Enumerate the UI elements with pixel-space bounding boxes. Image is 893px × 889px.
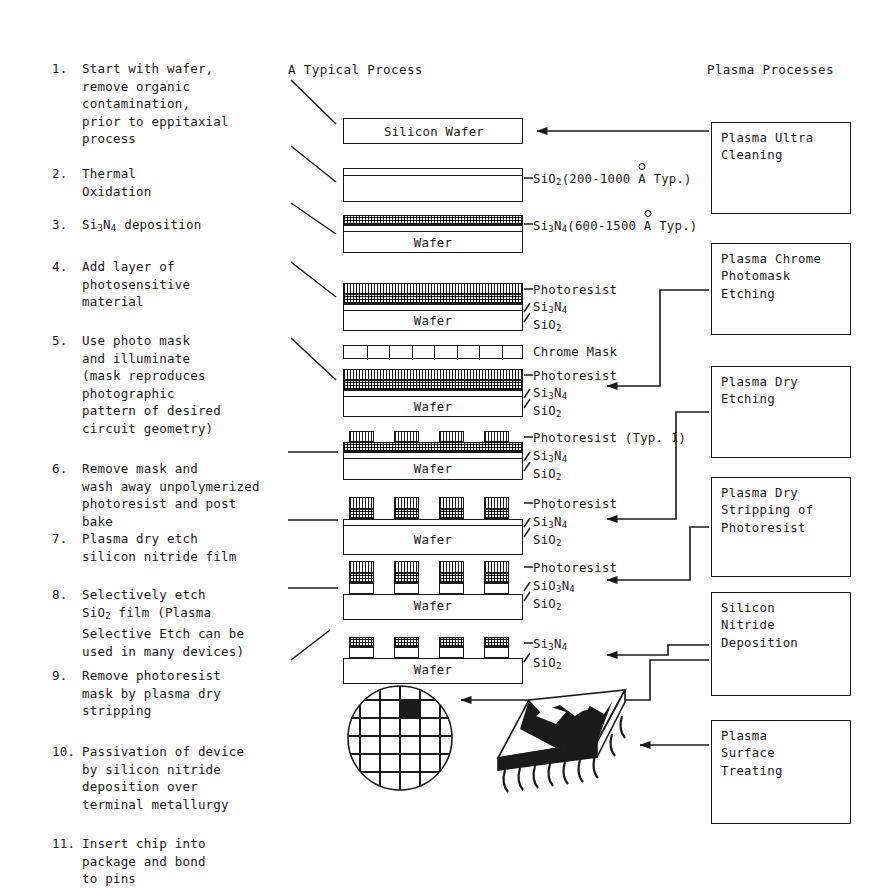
si3n4-island (484, 573, 509, 583)
photoresist-island (394, 561, 419, 573)
plasma-box-nitride-deposition[interactable]: Silicon Nitride Deposition (711, 592, 851, 696)
chip-package-icon (498, 690, 625, 792)
photoresist-island (439, 431, 464, 442)
sio2-island (349, 647, 374, 658)
wafer-disc-icon (348, 686, 452, 790)
process-step-text: Remove mask and wash away unpolymerized … (82, 460, 260, 530)
process-step-number: 8. (52, 586, 82, 604)
plasma-box-label: Plasma Dry Etching (721, 374, 798, 409)
process-step-number: 11. (52, 835, 82, 853)
callout-si3n4: Si3N4 (533, 300, 567, 318)
callout-chrome-mask: Chrome Mask (533, 345, 617, 360)
callout-si3n4-thickness: Si3N4(600-1500 A Typ.) (533, 219, 697, 237)
stack-sio2-layer (343, 519, 523, 526)
stack-wafer-label: Wafer (343, 596, 523, 616)
stack-wafer-label: Wafer (343, 459, 523, 479)
process-step-number: 2. (52, 165, 82, 183)
process-step: 6.Remove mask and wash away unpolymerize… (52, 460, 260, 530)
callout-si3n4: Si3N4 (533, 515, 567, 533)
photoresist-island (394, 497, 419, 509)
plasma-box-label: Silicon Nitride Deposition (721, 600, 798, 652)
callout-sio2: SiO2 (533, 318, 562, 336)
process-step-number: 5. (52, 332, 82, 350)
stack-wafer-label: Wafer (343, 311, 523, 331)
si3n4-island (484, 637, 509, 647)
si3n4-island (349, 637, 374, 647)
plasma-box-label: Plasma Dry Stripping of Photoresist (721, 485, 813, 537)
callout-sio2: SiO2 (533, 404, 562, 422)
callout-photoresist: Photoresist (533, 283, 617, 298)
stack-sio2-layer (343, 452, 523, 459)
process-step: 2.Thermal Oxidation (52, 165, 152, 200)
callout-si3n4: Si3N4 (533, 637, 567, 655)
stack-wafer-label: Wafer (343, 530, 523, 550)
stack-wafer-label: Wafer (343, 233, 523, 253)
stack-wafer-label: Wafer (343, 660, 523, 680)
si3n4-island (349, 509, 374, 519)
sio2-island (349, 583, 374, 594)
process-step-text: Start with wafer, remove organic contami… (82, 60, 229, 148)
plasma-box-surface-treating[interactable]: Plasma Surface Treating (711, 720, 851, 824)
stack-si3n4-layer (343, 380, 523, 390)
callout-photoresist: Photoresist (533, 369, 617, 384)
plasma-box-label: Plasma Ultra Cleaning (721, 130, 813, 165)
sio2-island (439, 583, 464, 594)
process-step-text: Remove photoresist mask by plasma dry st… (82, 667, 221, 720)
callout-si3n4: Si3N4 (533, 449, 567, 467)
chrome-mask-divider (367, 346, 368, 360)
callout-sio2: SiO2 (533, 533, 562, 551)
si3n4-island (484, 509, 509, 519)
process-step: 5.Use photo mask and illuminate (mask re… (52, 332, 221, 438)
right-column-heading: Plasma Processes (707, 62, 834, 77)
photoresist-island (484, 497, 509, 509)
photoresist-island (349, 497, 374, 509)
process-step: 11.Insert chip into package and bond to … (52, 835, 206, 888)
process-step-text: Passivation of device by silicon nitride… (82, 743, 244, 813)
chrome-mask-divider (502, 346, 503, 360)
plasma-box-chrome-photomask[interactable]: Plasma Chrome Photomask Etching (711, 243, 851, 335)
process-step-text: Selectively etch SiO2 film (Plasma Selec… (82, 586, 244, 660)
photoresist-island (349, 561, 374, 573)
photoresist-island (439, 561, 464, 573)
photoresist-island (349, 431, 374, 442)
stack-photoresist-layer (343, 369, 523, 380)
photoresist-island (484, 431, 509, 442)
photoresist-island (439, 497, 464, 509)
process-step-text: Insert chip into package and bond to pin… (82, 835, 206, 888)
process-step: 8.Selectively etch SiO2 film (Plasma Sel… (52, 586, 244, 660)
sio2-island (394, 583, 419, 594)
plasma-box-ultra-cleaning[interactable]: Plasma Ultra Cleaning (711, 122, 851, 214)
callout-photoresist: Photoresist (533, 497, 617, 512)
sio2-island (484, 647, 509, 658)
plasma-box-dry-stripping[interactable]: Plasma Dry Stripping of Photoresist (711, 477, 851, 577)
plasma-box-label: Plasma Chrome Photomask Etching (721, 251, 821, 303)
si3n4-island (439, 573, 464, 583)
sio2-island (484, 583, 509, 594)
stack-si3n4-layer (343, 294, 523, 304)
plasma-box-dry-etching[interactable]: Plasma Dry Etching (711, 366, 851, 458)
callout-si3n4: Si3N4 (533, 386, 567, 404)
chrome-mask-bar (343, 345, 523, 359)
process-step-number: 4. (52, 258, 82, 276)
stack-sio2-layer (343, 168, 523, 176)
stack-layer-label: Silicon Wafer (344, 119, 524, 145)
process-step-text: Si3N4 deposition (82, 216, 201, 238)
process-step: 1.Start with wafer, remove organic conta… (52, 60, 229, 148)
chrome-mask-divider (389, 346, 390, 360)
sio2-island (439, 647, 464, 658)
si3n4-island (394, 573, 419, 583)
process-step-number: 3. (52, 216, 82, 234)
chrome-mask-divider (457, 346, 458, 360)
sio2-island (394, 647, 419, 658)
si3n4-island (349, 573, 374, 583)
plasma-box-label: Plasma Surface Treating (721, 728, 783, 780)
si3n4-island (439, 509, 464, 519)
process-step: 4.Add layer of photosensitive material (52, 258, 190, 311)
center-column-heading: A Typical Process (288, 62, 423, 77)
si3n4-island (394, 637, 419, 647)
chrome-mask-divider (434, 346, 435, 360)
process-step-text: Use photo mask and illuminate (mask repr… (82, 332, 221, 438)
stack-sio2-layer (343, 225, 523, 232)
process-step-text: Add layer of photosensitive material (82, 258, 190, 311)
callout-photoresist: Photoresist (533, 561, 617, 576)
